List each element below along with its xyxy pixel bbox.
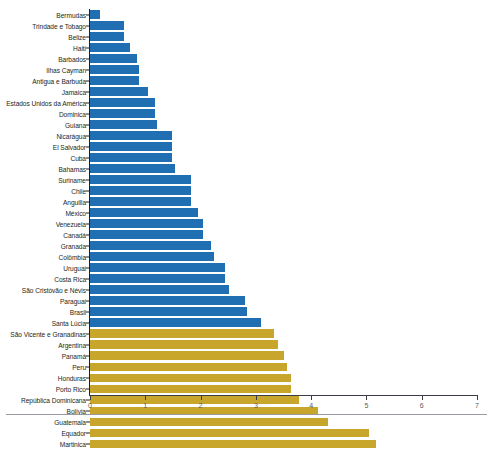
category-label: Nicarágua bbox=[56, 132, 86, 139]
bar bbox=[90, 98, 155, 107]
bar bbox=[90, 131, 172, 140]
category-label: Martinica bbox=[60, 441, 86, 448]
category-label: Argentina bbox=[58, 341, 86, 348]
category-label: Haiti bbox=[73, 44, 86, 51]
bar-row: Venezuela bbox=[0, 218, 493, 229]
category-label: Antigua e Barbuda bbox=[32, 77, 86, 84]
bar-row: Peru bbox=[0, 362, 493, 373]
category-label: Barbados bbox=[58, 55, 86, 62]
bar-row: São Vicente e Granadinas bbox=[0, 328, 493, 339]
category-label: Peru bbox=[72, 364, 86, 371]
bar-row: Ilhas Cayman bbox=[0, 64, 493, 75]
bar bbox=[90, 263, 225, 272]
bar-row: Martinica bbox=[0, 439, 493, 450]
category-label: Brasil bbox=[70, 308, 86, 315]
bar-row: Trindade e Tobago bbox=[0, 20, 493, 31]
bar-row: São Cristóvão e Névis bbox=[0, 284, 493, 295]
category-label: Suriname bbox=[58, 176, 86, 183]
bar bbox=[90, 65, 139, 74]
x-axis-tick-label: 2 bbox=[199, 402, 203, 410]
category-label: Belize bbox=[68, 33, 86, 40]
bar-row: Costa Rica bbox=[0, 273, 493, 284]
bar bbox=[90, 32, 124, 41]
x-axis-tick bbox=[145, 396, 146, 400]
x-axis-line bbox=[89, 395, 478, 396]
category-label: Honduras bbox=[58, 375, 86, 382]
category-label: Granada bbox=[61, 242, 86, 249]
bar-row: Dominica bbox=[0, 108, 493, 119]
bar-row: Chile bbox=[0, 185, 493, 196]
category-label: Anguilla bbox=[63, 198, 86, 205]
bar bbox=[90, 318, 261, 327]
category-label: Costa Rica bbox=[54, 275, 86, 282]
bar-row: Argentina bbox=[0, 339, 493, 350]
category-label: Guatemala bbox=[54, 419, 86, 426]
bar-row: Cuba bbox=[0, 152, 493, 163]
x-axis-tick bbox=[477, 396, 478, 400]
category-label: Paraguai bbox=[60, 297, 86, 304]
bar-row: Guatemala bbox=[0, 417, 493, 428]
category-label: Porto Rico bbox=[56, 386, 86, 393]
category-label: El Salvador bbox=[53, 143, 86, 150]
category-label: Uruguai bbox=[63, 264, 86, 271]
bar-row: Santa Lúcia bbox=[0, 317, 493, 328]
bar bbox=[90, 351, 284, 360]
bar-row: México bbox=[0, 207, 493, 218]
bar-rows: BermudasTrindade e TobagoBelizeHaitiBarb… bbox=[0, 9, 493, 450]
bar bbox=[90, 418, 328, 427]
y-axis-line bbox=[89, 9, 90, 396]
category-label: Bahamas bbox=[58, 165, 86, 172]
category-label: Panamá bbox=[62, 352, 86, 359]
bar bbox=[90, 109, 155, 118]
category-label: Jamaica bbox=[62, 88, 86, 95]
bar bbox=[90, 54, 137, 63]
bar bbox=[90, 329, 274, 338]
category-label: México bbox=[65, 209, 86, 216]
bar-row: Panamá bbox=[0, 350, 493, 361]
bar-row: Paraguai bbox=[0, 295, 493, 306]
category-label: República Dominicana bbox=[21, 397, 86, 404]
bar bbox=[90, 285, 229, 294]
bar bbox=[90, 374, 291, 383]
bar bbox=[90, 186, 191, 195]
category-label: Colômbia bbox=[59, 253, 86, 260]
bar-row: Barbados bbox=[0, 53, 493, 64]
bar bbox=[90, 175, 191, 184]
bar bbox=[90, 340, 278, 349]
bar-row: Honduras bbox=[0, 373, 493, 384]
bar bbox=[90, 429, 369, 438]
bar bbox=[90, 307, 247, 316]
x-axis-tick-label: 1 bbox=[143, 402, 147, 410]
bar bbox=[90, 10, 100, 19]
bar bbox=[90, 252, 214, 261]
category-label: Dominica bbox=[59, 110, 86, 117]
bar bbox=[90, 142, 172, 151]
x-axis-tick-label: 5 bbox=[364, 402, 368, 410]
bar-row: El Salvador bbox=[0, 141, 493, 152]
bar bbox=[90, 120, 157, 129]
bar-row: Antigua e Barbuda bbox=[0, 75, 493, 86]
bar-row: Porto Rico bbox=[0, 384, 493, 395]
category-label: Venezuela bbox=[56, 220, 86, 227]
category-label: Estados Unidos da América bbox=[6, 99, 86, 106]
category-label: São Vicente e Granadinas bbox=[10, 330, 86, 337]
bar bbox=[90, 363, 287, 372]
x-axis-tick bbox=[422, 396, 423, 400]
bar bbox=[90, 396, 299, 405]
category-label: São Cristóvão e Névis bbox=[22, 286, 86, 293]
bar-row: Uruguai bbox=[0, 262, 493, 273]
bar bbox=[90, 208, 198, 217]
bar-row: Estados Unidos da América bbox=[0, 97, 493, 108]
bar bbox=[90, 164, 175, 173]
category-label: Bermudas bbox=[56, 11, 86, 18]
category-label: Guiana bbox=[65, 121, 86, 128]
bar bbox=[90, 241, 211, 250]
bar-row: Colômbia bbox=[0, 251, 493, 262]
category-label: Canadá bbox=[63, 231, 86, 238]
x-axis-tick bbox=[201, 396, 202, 400]
bar-row: Suriname bbox=[0, 174, 493, 185]
bar bbox=[90, 197, 191, 206]
bar bbox=[90, 440, 376, 449]
category-label: Ilhas Cayman bbox=[46, 66, 86, 73]
